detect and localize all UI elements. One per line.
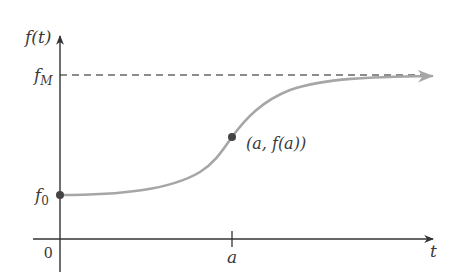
x-axis-label: t	[430, 241, 437, 261]
inflection-point-label: (a, f(a))	[246, 134, 306, 153]
initial-value-point	[56, 191, 64, 199]
fM-label: fM	[32, 65, 53, 88]
logistic-graph: f(t) fM f0 0 a t (a, f(a))	[0, 0, 464, 278]
x-tick-label-a: a	[227, 247, 237, 267]
fM-sub: M	[39, 74, 53, 88]
origin-label: 0	[44, 243, 53, 262]
y-axis-label: f(t)	[23, 27, 51, 47]
inflection-point	[228, 133, 236, 141]
f0-label: f0	[33, 185, 49, 208]
f0-sub: 0	[41, 194, 49, 208]
